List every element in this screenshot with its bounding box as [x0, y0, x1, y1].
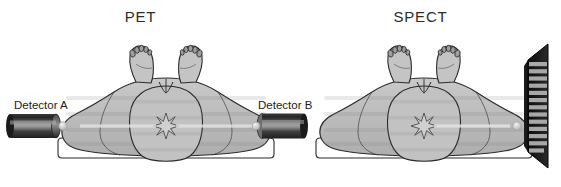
spect-ray-through-body [434, 124, 510, 127]
pet-scene [6, 45, 308, 161]
diagram-canvas [0, 0, 561, 187]
pet-photon-orb-a [59, 122, 67, 130]
figure-root: PET SPECT [0, 0, 561, 187]
pet-source-star [153, 113, 179, 139]
pet-patient-figure [58, 45, 274, 161]
spect-patient-figure [316, 45, 532, 161]
spect-source-star [411, 113, 437, 139]
spect-scene [316, 44, 548, 168]
detector-a[interactable] [6, 114, 61, 138]
pet-photon-orb-b [252, 122, 260, 130]
spect-photon-orb [513, 122, 521, 130]
spect-collimator-detector[interactable] [524, 44, 548, 168]
detector-b[interactable] [257, 114, 308, 139]
